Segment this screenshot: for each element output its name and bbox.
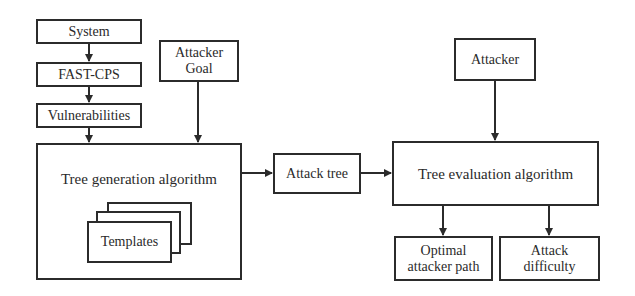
node-label: Templates: [101, 234, 158, 250]
node-label: System: [68, 24, 109, 40]
node-vulnerabilities: Vulnerabilities: [36, 103, 142, 128]
node-attack-difficulty: Attack difficulty: [499, 236, 600, 281]
node-label: Optimal attacker path: [400, 243, 487, 275]
node-label: Attack tree: [286, 166, 348, 182]
node-fast-cps: FAST-CPS: [36, 62, 142, 87]
node-label: Attacker: [471, 52, 519, 68]
node-label: Attacker Goal: [167, 45, 231, 77]
node-label: Attack difficulty: [519, 243, 580, 275]
node-label: Vulnerabilities: [48, 108, 130, 124]
node-attacker-goal: Attacker Goal: [159, 40, 239, 82]
node-tree-evaluation: Tree evaluation algorithm: [392, 141, 599, 206]
node-attack-tree: Attack tree: [273, 153, 361, 194]
node-label: Tree generation algorithm: [61, 171, 217, 187]
node-attacker: Attacker: [454, 38, 536, 81]
node-label: FAST-CPS: [58, 67, 119, 83]
node-system: System: [36, 19, 142, 44]
node-templates: Templates: [87, 221, 172, 263]
node-label: Tree evaluation algorithm: [418, 166, 573, 182]
node-optimal-attacker-path: Optimal attacker path: [394, 236, 493, 281]
